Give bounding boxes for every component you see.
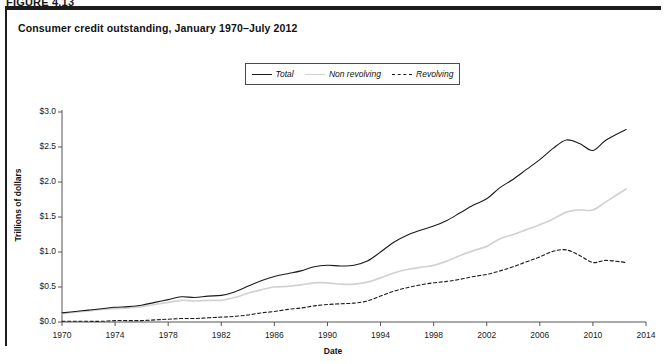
- series-line-total: [62, 130, 626, 313]
- y-tick-label: $3.0: [22, 106, 56, 116]
- x-tick-label: 1998: [414, 330, 454, 340]
- y-tick-label: $0.5: [22, 281, 56, 291]
- chart-canvas: [0, 0, 666, 364]
- x-tick-label: 2006: [520, 330, 560, 340]
- y-tick-label: $0.0: [22, 316, 56, 326]
- x-tick-label: 1982: [201, 330, 241, 340]
- y-tick-label: $1.5: [22, 211, 56, 221]
- plot-area: Trillions of dollars Date $0.0$0.5$1.0$1…: [0, 0, 666, 364]
- x-tick-label: 1990: [307, 330, 347, 340]
- x-tick-label: 1986: [254, 330, 294, 340]
- y-tick-label: $1.0: [22, 246, 56, 256]
- x-tick-label: 2014: [626, 330, 666, 340]
- y-tick-label: $2.5: [22, 141, 56, 151]
- x-tick-label: 1970: [42, 330, 82, 340]
- y-tick-label: $2.0: [22, 176, 56, 186]
- x-tick-label: 1994: [361, 330, 401, 340]
- series-line-revolving: [62, 250, 626, 322]
- x-tick-label: 1974: [95, 330, 135, 340]
- x-tick-label: 2010: [573, 330, 613, 340]
- x-tick-label: 1978: [148, 330, 188, 340]
- series-line-non-revolving: [62, 189, 626, 314]
- x-tick-label: 2002: [467, 330, 507, 340]
